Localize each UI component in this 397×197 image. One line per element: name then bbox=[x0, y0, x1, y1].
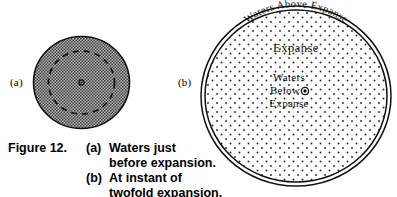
caption-text-a: Waters just before expansion. bbox=[109, 141, 216, 171]
label-waters: Waters bbox=[273, 71, 305, 83]
caption-item-a: (a) Waters just before expansion. bbox=[86, 141, 238, 171]
caption-items: (a) Waters just before expansion. (b) At… bbox=[86, 141, 238, 197]
center-marker-b-core bbox=[303, 89, 306, 92]
label-below: Below bbox=[270, 84, 300, 96]
caption-tag-a: (a) bbox=[86, 141, 109, 156]
caption-tag-b: (b) bbox=[86, 171, 109, 186]
panel-a-svg bbox=[32, 35, 131, 130]
figure-number: Figure 12. bbox=[8, 141, 86, 156]
caption-item-b: (b) At instant of twofold expansion. bbox=[86, 171, 238, 197]
label-expanse: Expanse bbox=[273, 41, 319, 55]
figure-12: (a) (b) bbox=[0, 0, 397, 197]
caption-text-b: At instant of twofold expansion. bbox=[109, 171, 222, 197]
label-expanse-below: Expanse bbox=[269, 97, 308, 109]
panel-a-tag: (a) bbox=[10, 76, 23, 89]
center-dot-a-core bbox=[81, 82, 83, 84]
panel-a-diagram bbox=[32, 35, 131, 130]
figure-caption: Figure 12. (a) Waters just before expans… bbox=[8, 141, 238, 197]
panel-b-tag: (b) bbox=[178, 76, 191, 89]
